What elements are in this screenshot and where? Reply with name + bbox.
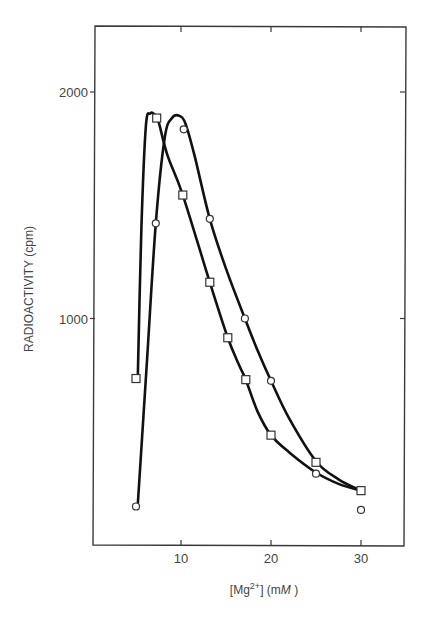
square-marker [206, 278, 214, 286]
curves [138, 113, 361, 505]
square-marker [224, 334, 232, 342]
y-axis-ticks: 10002000 [59, 85, 405, 327]
x-tick-label: 20 [264, 551, 278, 566]
circle-marker [268, 377, 275, 384]
circle-marker [152, 220, 159, 227]
chart: 102030 10002000 RADIOACTIVITY (cpm) [Mg2… [0, 0, 427, 624]
square-marker [312, 458, 320, 466]
y-axis-label: RADIOACTIVITY (cpm) [22, 226, 36, 352]
x-label-open: [Mg [230, 583, 250, 597]
x-tick-label: 10 [174, 551, 188, 566]
data-markers [132, 114, 365, 513]
square-marker [267, 431, 275, 439]
circle-marker [241, 315, 248, 322]
x-tick-label: 30 [354, 551, 368, 566]
x-label-sup: 2+ [250, 581, 260, 591]
square-marker [242, 376, 250, 384]
x-label-end: ) [291, 583, 298, 597]
square-marker [153, 114, 161, 122]
x-label-close: ] (m [260, 583, 281, 597]
square-marker [357, 487, 365, 495]
circle-marker [180, 126, 187, 133]
circle-marker [358, 506, 365, 513]
x-label-unit: M [281, 583, 291, 597]
circle-marker [313, 470, 320, 477]
x-axis-label: [Mg2+] (mM ) [230, 581, 298, 597]
square-marker [179, 191, 187, 199]
square-marker [132, 375, 140, 383]
circle-marker [133, 503, 140, 510]
y-tick-label: 1000 [59, 312, 88, 327]
y-tick-label: 2000 [59, 85, 88, 100]
curve-circles [138, 115, 361, 504]
curve-squares [138, 113, 361, 491]
circle-marker [206, 215, 213, 222]
